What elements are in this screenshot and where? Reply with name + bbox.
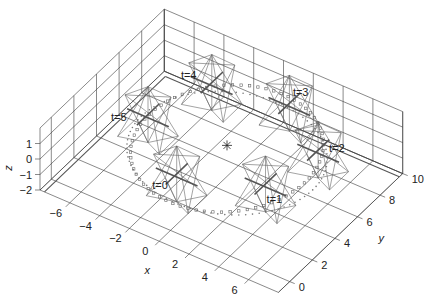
trajectory-marker [321,132,323,134]
trajectory-marker [305,107,307,109]
y-tick [380,195,385,197]
3d-chart: −6−4−202460246810−2−101xyzt=0t=1t=2t=3t=… [0,0,426,303]
trajectory-point [308,193,310,195]
trajectory-marker [292,191,294,193]
trajectory-point [214,91,216,93]
trajectory-marker [131,140,133,142]
grid [35,9,408,292]
x-tick [66,203,70,207]
trajectory-point [292,110,294,112]
x-tick-label: 4 [202,271,208,283]
trajectory-point [323,174,325,176]
y-tick [290,282,295,284]
z-tick-label: −2 [19,184,32,196]
trajectory-point [130,131,132,133]
trajectory-point [149,109,151,111]
x-axis-label: x [143,264,150,276]
x-tick [215,267,219,271]
trajectory-point [127,139,129,141]
trajectory-marker [255,207,257,209]
frame-edge [223,104,242,122]
frame-edge [146,196,176,202]
trajectory-point [190,208,192,210]
trajectory-point [287,107,289,109]
z-tick-label: 0 [26,153,32,165]
z-tick-label: −1 [19,169,32,181]
trajectory-marker [287,95,289,97]
trajectory-marker [240,84,242,86]
y-tick-label: 8 [389,194,395,206]
trajectory-point [146,185,148,187]
trajectory-marker [160,104,162,106]
trajectory-point [142,181,144,183]
frame-edge [148,136,178,142]
y-tick-label: 6 [367,216,373,228]
wall-shadow-edge [165,76,399,176]
frame-edge [289,75,319,125]
frame-edge [177,146,207,196]
trajectory-point [307,120,309,122]
trajectory-point [164,101,166,103]
left-wall-gridline-z [40,9,164,128]
x-tick [125,228,129,232]
trajectory-marker [265,88,267,90]
trajectory-marker [172,202,174,204]
y-tick-label: 4 [344,237,350,249]
y-tick-label: 0 [299,281,305,293]
z-axis-label: z [2,165,14,172]
x-tick [96,216,100,220]
trajectory-marker [229,211,231,213]
trajectory-marker [319,161,321,163]
trajectory-point [231,214,233,216]
trajectory-point [263,97,265,99]
left-wall-gridline-z [40,56,164,175]
trajectory-point [269,99,271,101]
trajectory-marker [212,211,214,213]
trajectory-point [304,196,306,198]
trajectory-point [302,117,304,119]
trajectory-point [299,199,301,201]
trajectory-point [325,149,327,151]
trajectory-marker [131,162,133,164]
trajectory-marker [248,85,250,87]
trajectory-point [208,91,210,93]
wall-shadow-edge [45,76,166,191]
left-wall-gridline-z [40,40,164,159]
frame-edge [212,55,242,105]
trajectory-point [245,214,247,216]
trajectory-marker [299,103,301,105]
trajectory-marker [309,112,311,114]
trajectory-marker [298,186,300,188]
trajectory-point [325,170,327,172]
trajectory-marker [238,210,240,212]
trajectory-marker [142,183,144,185]
frame-edge [177,196,207,202]
z-tick-label: 1 [26,138,32,150]
frame-edge [125,87,148,95]
trajectory-point [242,93,244,95]
frame-edge [159,136,178,154]
time-label-t4: t=4 [181,69,197,81]
y-axis-label: y [378,232,386,244]
trajectory-point [312,189,314,191]
trajectory-point [134,123,136,125]
y-tick-label: 2 [321,259,327,271]
trajectory-marker [308,177,310,179]
trajectory-marker [130,145,132,147]
frame-edge [118,136,148,142]
trajectory-marker [257,86,259,88]
y-tick [358,217,363,219]
frame-t4 [181,55,242,123]
trajectory-point [238,214,240,216]
trajectory-point [129,160,131,162]
labels: −6−4−202460246810−2−101xyzt=0t=1t=2t=3t=… [2,69,424,296]
trajectory-marker [220,211,222,213]
trajectory-point [249,94,251,96]
trajectory-point [315,186,317,188]
y-tick [403,174,408,176]
trajectory-point [126,148,128,150]
trajectory-point [184,206,186,208]
trajectory-point [126,152,128,154]
trajectory-point [258,213,260,215]
time-label-t5: t=5 [111,111,127,123]
